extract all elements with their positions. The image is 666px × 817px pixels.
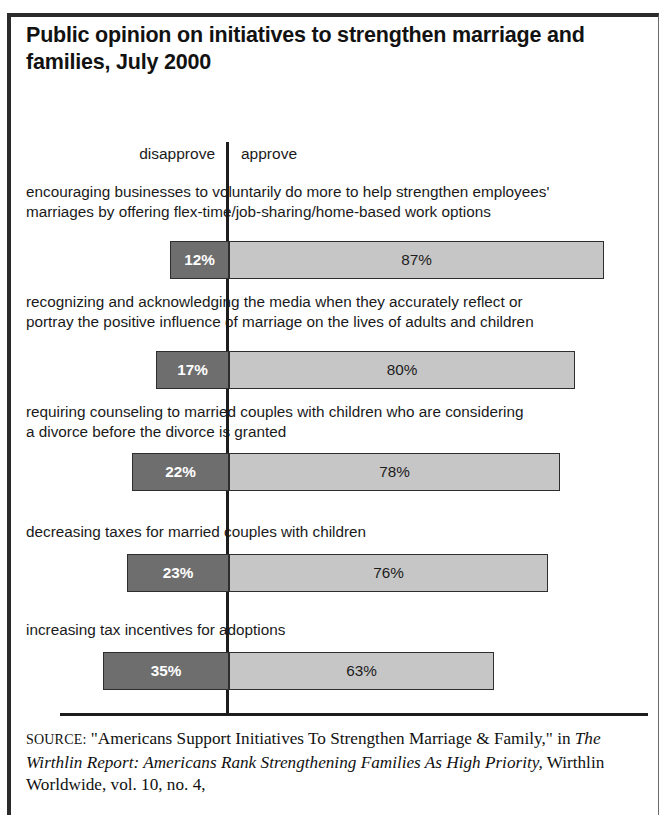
bar-approve: 63% [229,652,494,690]
bar-approve: 87% [229,241,604,279]
bar-disapprove: 23% [127,554,229,592]
source-note: SOURCE: "Americans Support Initiatives T… [26,728,638,797]
bar-value-disapprove: 22% [165,464,196,479]
bar-value-disapprove: 23% [163,565,194,580]
source-connector: in [557,729,570,748]
source-quoted-title: "Americans Support Initiatives To Streng… [91,729,553,748]
bar-disapprove: 35% [103,652,229,690]
item-label: requiring counseling to married couples … [26,402,636,441]
chart-plot-area: disapprove approve encouraging businesse… [0,0,652,802]
item-label-line: a divorce before the divorce is granted [26,422,636,442]
axis-label-approve: approve [241,144,297,164]
bar-value-disapprove: 12% [184,252,215,267]
bar-approve: 78% [229,453,560,491]
bar-approve: 76% [229,554,548,592]
item-label-line: requiring counseling to married couples … [26,402,636,422]
bar-value-approve: 80% [387,362,418,377]
axis-baseline-rule [60,713,648,716]
axis-label-disapprove: disapprove [139,144,215,164]
item-label-line: portray the positive influence of marria… [26,312,636,332]
bar-disapprove: 22% [132,453,229,491]
item-label-line: recognizing and acknowledging the media … [26,292,636,312]
item-label-line: marriages by offering flex-time/job-shar… [26,202,636,222]
bar-value-approve: 87% [401,252,432,267]
item-label: encouraging businesses to voluntarily do… [26,182,636,221]
item-label: decreasing taxes for married couples wit… [26,522,636,542]
bar-value-approve: 76% [373,565,404,580]
bar-disapprove: 12% [170,241,229,279]
bar-value-approve: 78% [379,464,410,479]
item-label-line: decreasing taxes for married couples wit… [26,522,636,542]
item-label: recognizing and acknowledging the media … [26,292,636,331]
bar-disapprove: 17% [156,351,229,389]
bar-approve: 80% [229,351,575,389]
item-label-line: encouraging businesses to voluntarily do… [26,182,636,202]
item-label-line: increasing tax incentives for adoptions [26,620,636,640]
item-label: increasing tax incentives for adoptions [26,620,636,640]
bar-value-disapprove: 35% [151,663,182,678]
source-note-label: SOURCE: [26,732,87,747]
bar-value-approve: 63% [346,663,377,678]
bar-value-disapprove: 17% [177,362,208,377]
